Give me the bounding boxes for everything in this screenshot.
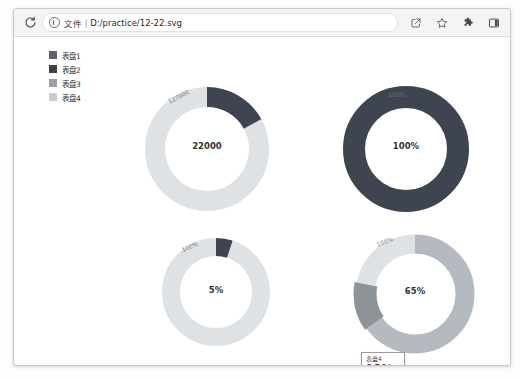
toolbar-right-icons xyxy=(402,13,504,33)
bookmark-star-icon[interactable] xyxy=(432,13,452,33)
gauge-chart-2[interactable]: 100% 100% xyxy=(336,79,476,219)
address-bar[interactable]: 文件 | D:/practice/12-22.svg xyxy=(42,13,398,32)
browser-toolbar: 文件 | D:/practice/12-22.svg xyxy=(14,9,510,37)
gauge-1-center-value: 22000 xyxy=(137,141,277,151)
sidebar-panel-icon[interactable] xyxy=(484,13,504,33)
reload-icon[interactable] xyxy=(20,13,40,33)
screenshot-root: 文件 | D:/practice/12-22.svg xyxy=(0,0,521,378)
browser-window: 文件 | D:/practice/12-22.svg xyxy=(13,8,511,366)
extensions-puzzle-icon[interactable] xyxy=(458,13,478,33)
gauge-chart-3[interactable]: 5% 100% xyxy=(155,231,277,353)
gauge-3-center-value: 5% xyxy=(155,285,277,295)
gauge-2-center-value: 100% xyxy=(336,141,476,151)
gauge-2-arc-label: 100% xyxy=(388,91,405,98)
url-scheme-label: 文件 xyxy=(64,17,82,29)
chart-tooltip: 表盘4 13% xyxy=(361,352,405,366)
svg-page-content: 表盘1 表盘2 表盘3 表盘4 xyxy=(14,37,510,364)
tooltip-value: 13% xyxy=(366,363,399,366)
gauge-chart-1[interactable]: 22000 127000 xyxy=(137,79,277,219)
gauge-chart-grid: 22000 127000 100% 100% xyxy=(14,37,510,364)
url-path-text: D:/practice/12-22.svg xyxy=(90,18,182,28)
gauge-4-center-value: 65% xyxy=(348,286,482,296)
url-separator: | xyxy=(85,18,87,28)
site-info-icon[interactable] xyxy=(49,17,60,28)
share-icon[interactable] xyxy=(406,13,426,33)
gauge-chart-4[interactable]: 65% 100% xyxy=(348,227,482,361)
